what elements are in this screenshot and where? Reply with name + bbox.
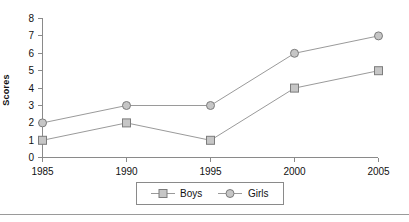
x-axis-tick-labels: 1985 1990 1995 2000 2005 — [31, 166, 390, 177]
x-tick-label: 2000 — [283, 166, 306, 177]
y-tick-label: 7 — [28, 30, 34, 41]
legend-label-boys: Boys — [180, 188, 202, 199]
x-tick-label: 1990 — [115, 166, 138, 177]
y-axis-tick-labels: 8 7 6 5 4 3 2 1 0 — [28, 13, 34, 163]
y-tick-label: 0 — [28, 152, 34, 163]
circle-marker-icon — [226, 190, 234, 198]
x-tick-label: 1985 — [31, 166, 54, 177]
legend-label-girls: Girls — [248, 188, 269, 199]
x-tick-label: 1995 — [199, 166, 222, 177]
y-tick-label: 8 — [28, 13, 34, 24]
line-chart-canvas: 8 7 6 5 4 3 2 1 0 1985 1990 1995 2000 20… — [0, 0, 409, 222]
y-tick-label: 4 — [28, 83, 34, 94]
y-tick-label: 1 — [28, 135, 34, 146]
chart-legend: Boys Girls — [137, 183, 284, 205]
y-tick-label: 6 — [28, 48, 34, 59]
y-tick-label: 5 — [28, 65, 34, 76]
y-tick-label: 3 — [28, 100, 34, 111]
y-tick-label: 2 — [28, 117, 34, 128]
square-marker-icon — [159, 190, 167, 198]
x-tick-label: 2005 — [367, 166, 390, 177]
chart-figure: Scores 8 7 6 5 4 3 2 1 0 — [0, 0, 409, 222]
x-axis-ticks — [43, 158, 379, 163]
